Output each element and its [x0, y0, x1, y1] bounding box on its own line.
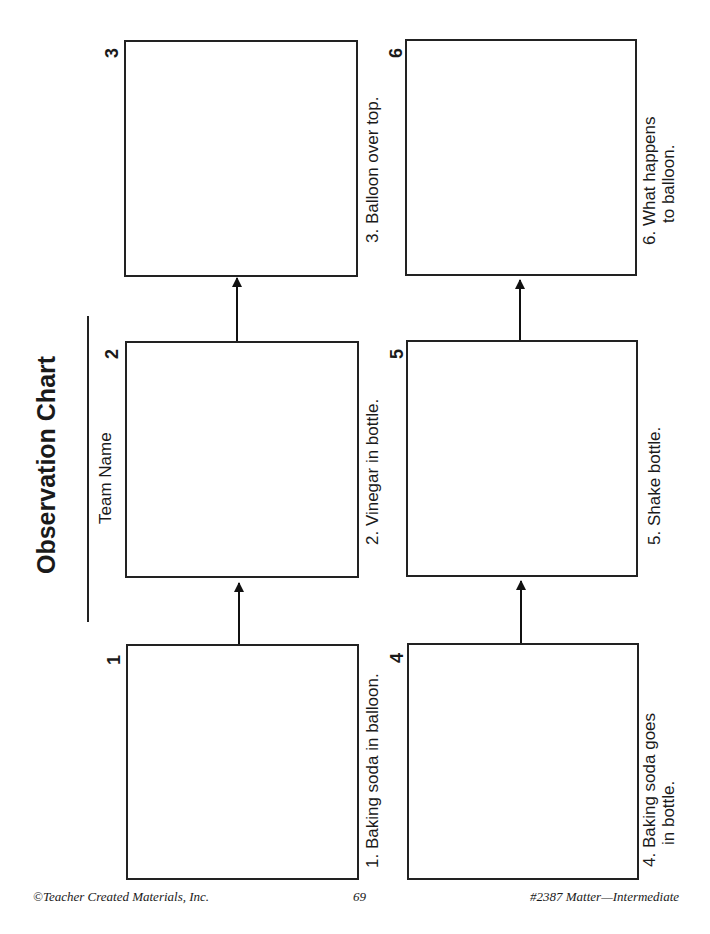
step-2-number: 2 [102, 349, 123, 359]
arrow-1-to-2-icon [238, 583, 240, 644]
step-6-number: 6 [386, 48, 407, 58]
step-4-number: 4 [387, 653, 408, 663]
arrow-5-to-6-icon [519, 280, 521, 340]
step-5-caption: 5. Shake bottle. [645, 427, 664, 545]
team-name-label: Team Name [96, 432, 116, 524]
step-2-box[interactable] [125, 341, 359, 578]
page-title: Observation Chart [32, 356, 61, 574]
step-4-caption-line-2: in bottle. [659, 713, 678, 867]
step-3-number: 3 [102, 48, 123, 58]
step-1-number: 1 [104, 655, 125, 665]
footer-book-title: #2387 Matter—Intermediate [530, 889, 679, 905]
team-name-line [87, 316, 89, 622]
arrow-4-to-5-icon [520, 581, 522, 643]
step-3-box[interactable] [124, 40, 358, 277]
step-6-box[interactable] [405, 39, 637, 276]
step-6-caption-line-2: to balloon. [659, 116, 678, 245]
arrow-2-to-3-icon [236, 278, 238, 341]
step-5-box[interactable] [406, 340, 638, 577]
step-4-caption: 4. Baking soda goes in bottle. [640, 713, 678, 867]
step-1-caption: 1. Baking soda in balloon. [363, 673, 382, 868]
step-6-caption-line-1: 6. What happens [640, 116, 659, 245]
footer-page-number: 69 [353, 889, 366, 905]
step-1-box[interactable] [126, 644, 359, 880]
footer-copyright: ©Teacher Created Materials, Inc. [33, 889, 209, 905]
step-6-caption: 6. What happens to balloon. [640, 116, 678, 245]
step-4-box[interactable] [407, 643, 639, 880]
step-3-caption: 3. Balloon over top. [363, 97, 382, 243]
step-4-caption-line-1: 4. Baking soda goes [640, 713, 659, 867]
step-5-number: 5 [387, 349, 408, 359]
step-2-caption: 2. Vinegar in bottle. [363, 399, 382, 545]
